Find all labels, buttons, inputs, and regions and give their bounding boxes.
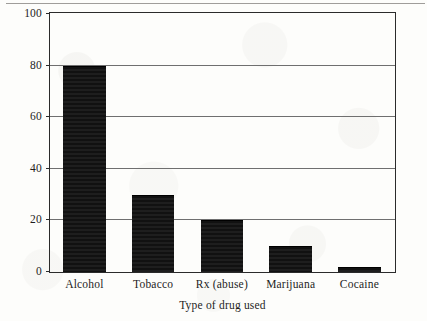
bar[interactable]	[269, 246, 312, 272]
y-axis-tick	[46, 168, 50, 169]
y-axis-tick	[46, 13, 50, 14]
x-axis-tick-label: Cocaine	[340, 278, 379, 290]
x-axis-tick-label: Alcohol	[65, 278, 103, 290]
bar[interactable]	[338, 267, 381, 272]
x-axis-tick-label: Tobacco	[133, 278, 173, 290]
bar[interactable]	[201, 220, 244, 272]
y-axis-tick	[46, 116, 50, 117]
y-axis-tick	[46, 219, 50, 220]
y-axis-tick-label: 40	[30, 162, 42, 174]
plot-frame: 020406080100AlcoholTobaccoRx (abuse)Mari…	[49, 12, 396, 273]
bar-chart-figure: Percentage of population 020406080100Alc…	[0, 0, 427, 321]
x-axis-tick-label: Rx (abuse)	[196, 278, 248, 290]
scanned-page: Percentage of population 020406080100Alc…	[0, 0, 427, 321]
plot-area: 020406080100AlcoholTobaccoRx (abuse)Mari…	[50, 13, 395, 272]
y-axis-tick-label: 20	[30, 213, 42, 225]
bar[interactable]	[63, 66, 106, 272]
y-axis-tick	[46, 65, 50, 66]
x-axis-tick-label: Marijuana	[266, 278, 315, 290]
y-axis-tick-label: 0	[36, 265, 42, 277]
y-axis-tick-label: 80	[30, 59, 42, 71]
x-axis-title: Type of drug used	[49, 299, 396, 311]
y-axis-tick-label: 60	[30, 110, 42, 122]
y-axis-tick-label: 100	[24, 7, 42, 19]
bar[interactable]	[132, 195, 175, 272]
y-axis-tick	[46, 271, 50, 272]
